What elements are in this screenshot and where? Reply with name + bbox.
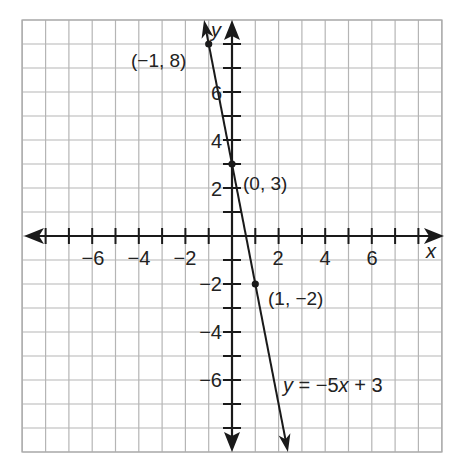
x-axis-label: x (425, 240, 437, 262)
y-tick-label: 6 (211, 82, 222, 104)
coordinate-plane: −6 −4 −2 2 4 6 6 4 2 −2 −4 −6 x y (−1, 8… (0, 0, 457, 471)
x-tick-label: 6 (366, 247, 377, 269)
y-axis-label: y (209, 19, 222, 41)
point-label-neg1-8: (−1, 8) (131, 50, 186, 71)
x-tick-label: 4 (319, 247, 330, 269)
x-tick-label: 2 (272, 247, 283, 269)
data-point (205, 40, 212, 47)
x-tick-label: −2 (174, 247, 197, 269)
x-tick-label: −6 (82, 247, 105, 269)
y-tick-label: 4 (211, 130, 222, 152)
y-tick-label: −4 (199, 321, 222, 343)
data-point (252, 280, 259, 287)
equation-label: y = −5x + 3 (281, 374, 383, 396)
data-point (228, 160, 235, 167)
x-axis (24, 228, 444, 244)
y-tick-label: 2 (211, 178, 222, 200)
y-tick-label: −2 (199, 273, 222, 295)
x-tick-label: −4 (128, 247, 151, 269)
point-label-0-3: (0, 3) (243, 173, 287, 194)
point-label-1-neg2: (1, −2) (268, 288, 323, 309)
y-tick-label: −6 (199, 369, 222, 391)
